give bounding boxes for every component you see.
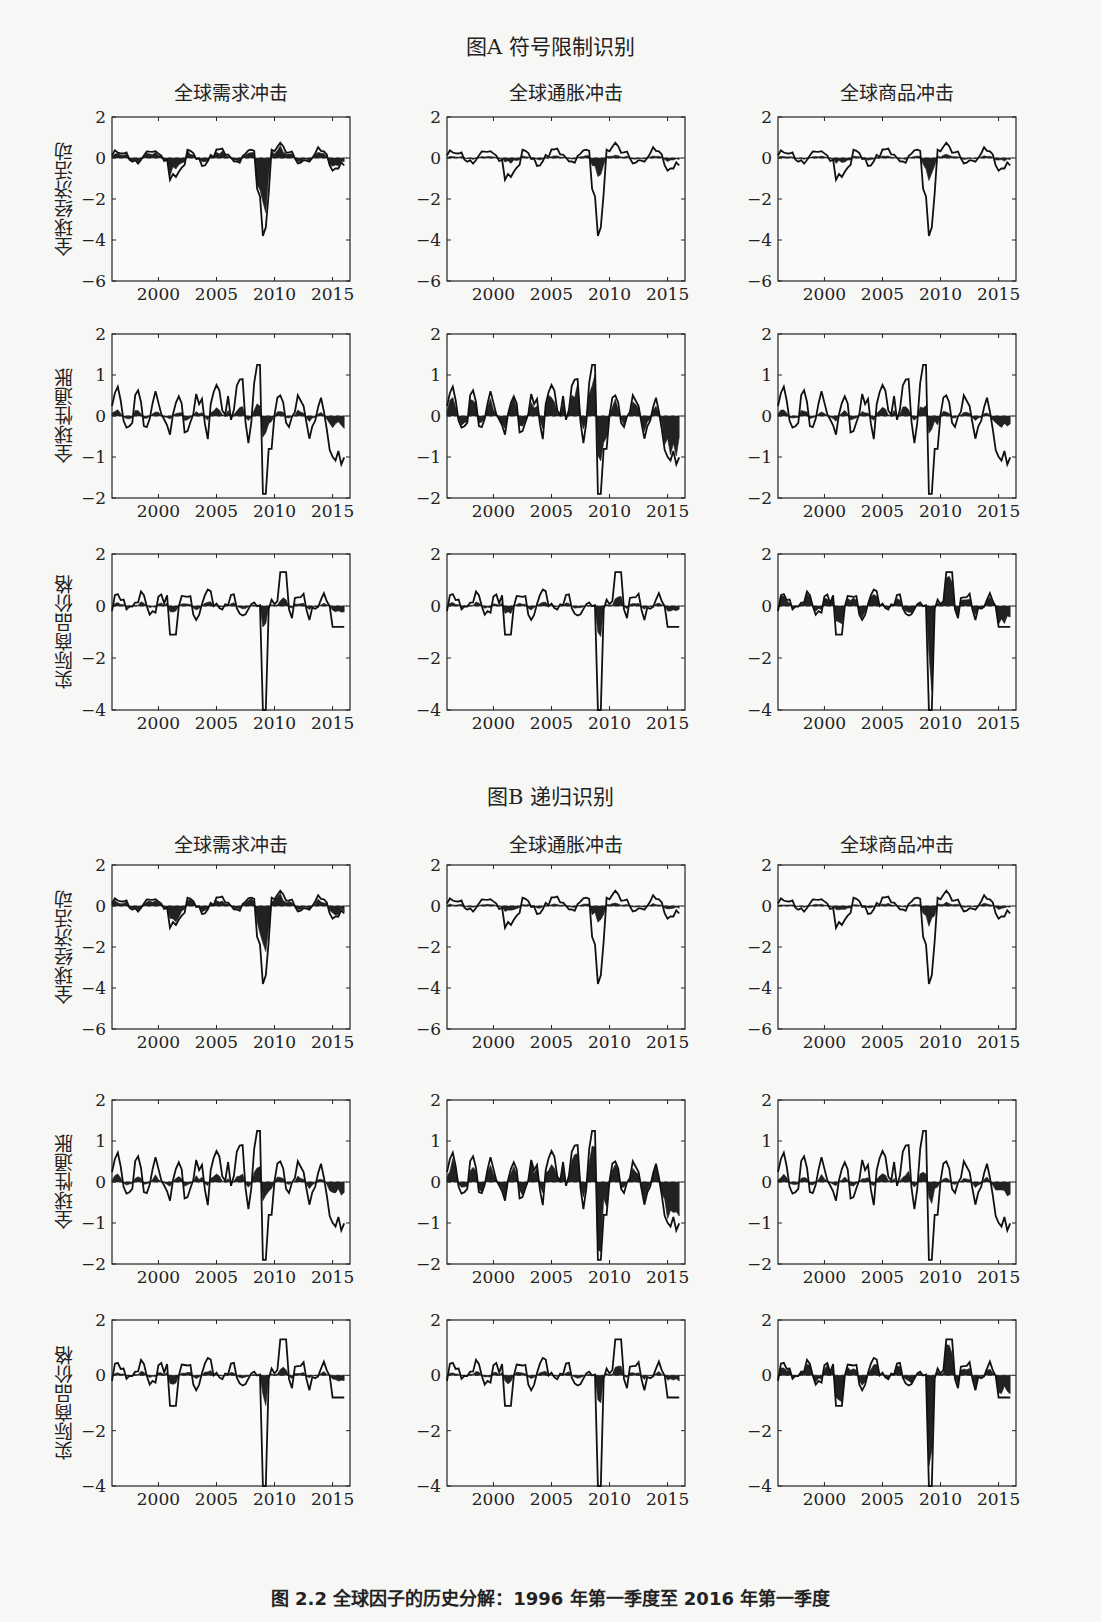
svg-text:2: 2 [95,855,106,875]
svg-text:2005: 2005 [195,501,238,521]
svg-text:2005: 2005 [861,1032,904,1052]
svg-text:−4: −4 [747,1476,772,1496]
row-label: 全球性通胀 [50,344,77,488]
svg-text:2005: 2005 [861,713,904,733]
svg-text:2015: 2015 [646,1489,689,1509]
svg-text:1: 1 [95,365,106,385]
svg-text:−6: −6 [81,271,106,291]
svg-text:2005: 2005 [530,284,573,304]
subplot: 210−1−22000200520102015 [447,1100,685,1268]
row-label: 实际商品价格 [50,564,77,700]
svg-text:2010: 2010 [253,713,296,733]
subplot: 210−1−22000200520102015 [778,1100,1016,1268]
svg-text:2015: 2015 [646,501,689,521]
svg-text:2015: 2015 [977,284,1020,304]
svg-text:−2: −2 [747,937,772,957]
svg-text:2: 2 [761,544,772,564]
svg-text:2005: 2005 [861,284,904,304]
svg-text:0: 0 [761,148,772,168]
svg-text:−6: −6 [81,1019,106,1039]
svg-text:2010: 2010 [588,1489,631,1509]
svg-text:2015: 2015 [311,501,354,521]
svg-text:2: 2 [430,324,441,344]
svg-text:2: 2 [761,1090,772,1110]
svg-text:2: 2 [761,855,772,875]
svg-text:0: 0 [430,148,441,168]
svg-text:0: 0 [95,1172,106,1192]
svg-text:2000: 2000 [472,1267,515,1287]
svg-text:−4: −4 [416,1476,441,1496]
svg-text:0: 0 [430,1365,441,1385]
svg-text:2005: 2005 [530,1267,573,1287]
svg-text:0: 0 [95,596,106,616]
svg-text:2010: 2010 [919,1489,962,1509]
svg-text:2: 2 [761,107,772,127]
subplot: 20−2−4−62000200520102015 [112,117,350,285]
svg-text:−1: −1 [81,1213,106,1233]
svg-text:2000: 2000 [137,713,180,733]
svg-text:0: 0 [430,896,441,916]
svg-text:−2: −2 [416,189,441,209]
svg-text:2015: 2015 [977,1489,1020,1509]
svg-text:2015: 2015 [977,1032,1020,1052]
svg-text:2000: 2000 [137,1032,180,1052]
svg-text:2000: 2000 [803,284,846,304]
svg-text:2000: 2000 [137,284,180,304]
svg-text:2: 2 [430,1090,441,1110]
row-label: 全球经济活动 [50,127,77,271]
svg-text:−4: −4 [81,978,106,998]
column-title: 全球通胀冲击 [446,78,686,105]
svg-text:2005: 2005 [861,501,904,521]
svg-text:−6: −6 [747,271,772,291]
svg-text:0: 0 [761,1365,772,1385]
svg-text:−2: −2 [416,1421,441,1441]
svg-text:2015: 2015 [311,1489,354,1509]
svg-text:−2: −2 [81,488,106,508]
svg-text:−2: −2 [416,488,441,508]
svg-text:2005: 2005 [530,713,573,733]
subplot: 20−2−42000200520102015 [447,1320,685,1490]
svg-text:2000: 2000 [137,1267,180,1287]
svg-text:2: 2 [430,107,441,127]
svg-text:2015: 2015 [977,713,1020,733]
svg-text:2: 2 [95,1090,106,1110]
column-title: 全球需求冲击 [111,78,351,105]
subplot: 210−1−22000200520102015 [778,334,1016,502]
panel-a-title: 图A 符号限制识别 [0,30,1101,60]
svg-text:2000: 2000 [803,1032,846,1052]
svg-text:2015: 2015 [646,1032,689,1052]
svg-text:−2: −2 [416,937,441,957]
svg-text:−2: −2 [747,488,772,508]
subplot: 20−2−42000200520102015 [112,1320,350,1490]
svg-text:2015: 2015 [646,1267,689,1287]
subplot: 210−1−22000200520102015 [447,334,685,502]
subplot: 210−1−22000200520102015 [112,1100,350,1268]
subplot: 20−2−4−62000200520102015 [778,117,1016,285]
row-label: 全球性通胀 [50,1110,77,1254]
column-title: 全球商品冲击 [777,78,1017,105]
svg-text:2: 2 [95,107,106,127]
svg-text:−4: −4 [81,700,106,720]
svg-text:2015: 2015 [646,284,689,304]
svg-text:2010: 2010 [919,501,962,521]
svg-text:2000: 2000 [472,501,515,521]
svg-text:0: 0 [761,596,772,616]
svg-text:1: 1 [430,365,441,385]
svg-text:0: 0 [95,896,106,916]
svg-text:−2: −2 [747,1421,772,1441]
svg-text:0: 0 [430,596,441,616]
svg-text:1: 1 [95,1131,106,1151]
svg-text:2015: 2015 [646,713,689,733]
svg-text:2: 2 [95,324,106,344]
svg-text:2000: 2000 [472,1032,515,1052]
svg-text:−2: −2 [81,937,106,957]
svg-text:2015: 2015 [977,1267,1020,1287]
svg-text:0: 0 [95,1365,106,1385]
svg-text:−2: −2 [81,189,106,209]
svg-text:2000: 2000 [803,1489,846,1509]
svg-text:2: 2 [761,1310,772,1330]
svg-text:−4: −4 [747,230,772,250]
svg-text:1: 1 [430,1131,441,1151]
svg-text:2015: 2015 [311,1267,354,1287]
svg-text:2005: 2005 [530,1489,573,1509]
